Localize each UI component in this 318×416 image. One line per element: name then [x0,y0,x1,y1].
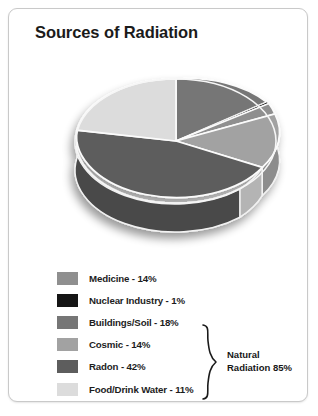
legend-label-nuclear-industry: Nuclear Industry - 1% [89,295,185,306]
legend-item-buildings-soil: Buildings/Soil - 18% [57,311,307,333]
natural-radiation-label: Natural Radiation 85% [227,349,292,374]
natural-radiation-line2: Radiation 85% [227,362,292,375]
legend-item-medicine: Medicine - 14% [57,267,307,289]
legend-item-nuclear-industry: Nuclear Industry - 1% [57,289,307,311]
pie-chart [9,53,309,268]
legend-label-radon: Radon - 42% [89,361,146,372]
pie-chart-svg [9,53,309,268]
legend-swatch-buildings-soil [57,316,78,329]
chart-card: Sources of Radiation [8,8,308,402]
legend-swatch-cosmic [57,338,78,351]
legend-label-cosmic: Cosmic - 14% [89,339,150,350]
curly-brace-icon [199,323,223,401]
legend-swatch-radon [57,360,78,373]
legend-swatch-food-drink-water [57,383,78,396]
legend-swatch-medicine [57,272,78,285]
legend-swatch-nuclear-industry [57,294,78,307]
natural-radiation-brace [199,323,223,401]
legend-item-food-drink-water: Food/Drink Water - 11% [57,378,307,400]
page-title: Sources of Radiation [35,23,198,42]
chart-legend: Medicine - 14% Nuclear Industry - 1% Bui… [57,267,307,400]
pie-body [75,79,279,232]
legend-label-buildings-soil: Buildings/Soil - 18% [89,317,179,328]
legend-label-food-drink-water: Food/Drink Water - 11% [89,384,194,395]
natural-radiation-line1: Natural [227,349,292,362]
legend-label-medicine: Medicine - 14% [89,273,156,284]
pie-slice-food-drink-water [77,79,176,141]
